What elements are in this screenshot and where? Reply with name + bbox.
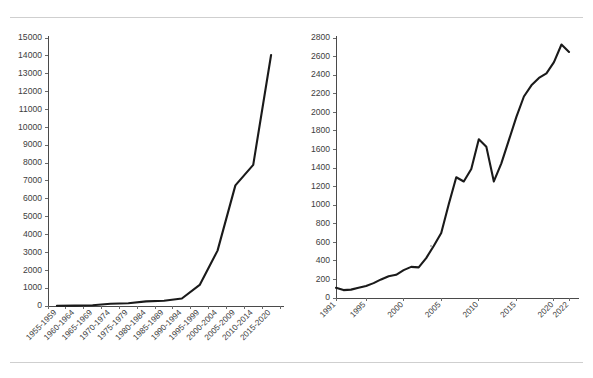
y-axis-tick-label: 9000 xyxy=(23,139,42,149)
y-axis-tick-label: 7000 xyxy=(23,175,42,185)
right-chart-svg: 0200400600800100012001400160018002000220… xyxy=(296,24,591,360)
y-axis-tick-label: 4000 xyxy=(23,229,42,239)
y-axis-tick-label: 5000 xyxy=(23,211,42,221)
y-axis-tick-label: 1800 xyxy=(311,125,330,135)
data-series-line xyxy=(336,45,569,291)
y-axis-tick-label: 6000 xyxy=(23,193,42,203)
x-axis-tick-label: 2015 xyxy=(499,300,519,320)
y-axis-tick-label: 12000 xyxy=(18,86,42,96)
y-axis-tick-label: 8000 xyxy=(23,157,42,167)
top-divider-rule xyxy=(10,17,583,18)
y-axis-tick-label: 1000 xyxy=(311,199,330,209)
y-axis-tick-label: 0 xyxy=(37,300,42,310)
y-axis-tick-label: 3000 xyxy=(23,247,42,257)
x-axis-tick-label: 1995 xyxy=(348,300,368,320)
data-series-line xyxy=(57,55,271,306)
right-chart-figure: 0200400600800100012001400160018002000220… xyxy=(296,24,591,360)
y-axis-tick-label: 2000 xyxy=(23,265,42,275)
x-axis-tick-label: 2010 xyxy=(461,300,481,320)
y-axis-tick-label: 2600 xyxy=(311,51,330,61)
left-chart-svg: 0100020003000400050006000700080009000100… xyxy=(2,24,294,360)
left-chart-figure: 0100020003000400050006000700080009000100… xyxy=(2,24,294,360)
y-axis-tick-label: 600 xyxy=(316,237,331,247)
y-axis-tick-label: 200 xyxy=(316,274,331,284)
y-axis-tick-label: 2800 xyxy=(311,32,330,42)
x-axis-tick-label: 2022 xyxy=(551,300,571,320)
y-axis-tick-label: 800 xyxy=(316,218,331,228)
y-axis-tick-label: 2200 xyxy=(311,88,330,98)
x-axis-tick-label: 2005 xyxy=(423,300,443,320)
y-axis-tick-label: 10000 xyxy=(18,122,42,132)
y-axis-tick-label: 1200 xyxy=(311,181,330,191)
x-axis-tick-label: 2020 xyxy=(536,300,556,320)
y-axis-tick-label: 15000 xyxy=(18,32,42,42)
y-axis-tick-label: 1400 xyxy=(311,162,330,172)
y-axis-tick-label: 13000 xyxy=(18,68,42,78)
x-axis-tick-label: 1991 xyxy=(318,300,338,320)
x-axis-tick-label: 2000 xyxy=(386,300,406,320)
y-axis-tick-label: 11000 xyxy=(19,104,42,114)
bottom-divider-rule xyxy=(10,362,583,363)
stray-speck xyxy=(430,245,432,247)
y-axis-tick-label: 400 xyxy=(316,255,331,265)
y-axis-tick-label: 1000 xyxy=(23,282,42,292)
figure-page: 0100020003000400050006000700080009000100… xyxy=(0,0,593,378)
y-axis-tick-label: 2000 xyxy=(311,107,330,117)
y-axis-tick-label: 2400 xyxy=(311,69,330,79)
y-axis-tick-label: 14000 xyxy=(18,50,42,60)
y-axis-tick-label: 1600 xyxy=(311,144,330,154)
